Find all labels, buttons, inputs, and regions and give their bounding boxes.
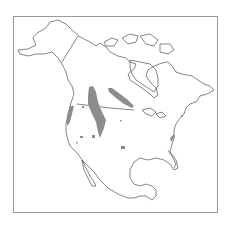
range-patch — [181, 115, 183, 117]
coastline-outline — [18, 20, 214, 200]
north-america-map — [0, 0, 233, 226]
species-range — [67, 86, 183, 149]
range-pacific-coast — [67, 106, 74, 126]
range-patch — [121, 146, 125, 149]
range-patch — [76, 142, 78, 144]
range-prairie-band — [108, 88, 134, 108]
range-patch — [82, 106, 84, 108]
range-patch — [92, 135, 95, 138]
range-rockies — [88, 86, 106, 138]
range-patch — [80, 136, 83, 138]
range-patch — [120, 120, 122, 122]
